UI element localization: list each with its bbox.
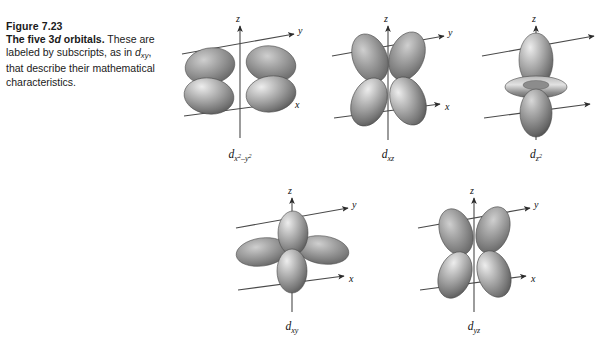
orbital-label-dyz: dyz [404, 320, 544, 335]
orbital-diagram-dyz: z y x [404, 180, 544, 320]
axis-label-x: x [348, 273, 354, 284]
orbital-svg-dxy: z y x [222, 180, 362, 320]
orbital-svg-dz2: z [466, 8, 599, 148]
orbital-diagram-dx2y2: z y x [170, 8, 310, 148]
axis-label-y: y [447, 27, 453, 38]
orbital-label-dz2: dz2 [466, 148, 599, 163]
axis-label-z: z [531, 13, 536, 24]
orbital-diagram-dz2: z [466, 8, 599, 148]
orbital-lobes [234, 211, 350, 293]
axis-label-x: x [530, 273, 536, 284]
orbital-diagram-dxy: z y x [222, 180, 362, 320]
caption-lead: The five 3d orbitals. [6, 33, 105, 45]
figure-number: Figure 7.23 [6, 20, 158, 33]
caption-inline-symbol: dxy [135, 46, 148, 58]
orbital-svg-dyz: z y x [404, 180, 544, 320]
figure-caption-text: The five 3d orbitals. These are labeled … [6, 33, 158, 89]
orbital-label-dxy: dxy [222, 320, 362, 335]
axis-lines [332, 26, 444, 140]
axis-label-z: z [287, 185, 292, 196]
axis-label-y: y [351, 199, 357, 210]
axis-label-z: z [383, 13, 388, 24]
figure-caption: Figure 7.23 The five 3d orbitals. These … [6, 20, 158, 89]
axis-lines [418, 198, 530, 312]
caption-part-1: These [107, 33, 136, 45]
axis-label-x: x [444, 101, 450, 112]
orbital-diagram-dxz: z y x [318, 8, 458, 148]
axis-label-z: z [235, 13, 240, 24]
axis-label-z: z [469, 185, 474, 196]
orbital-label-dxz: dxz [318, 148, 458, 163]
orbital-label-dx2y2: dx2–y2 [170, 148, 310, 163]
orbital-lobes [505, 33, 567, 137]
orbital-svg-dxz: z y x [318, 8, 458, 148]
orbital-svg-dx2y2: z y x [170, 8, 310, 148]
axis-label-x: x [294, 99, 300, 110]
axis-label-y: y [533, 199, 539, 210]
axis-label-y: y [297, 25, 303, 36]
